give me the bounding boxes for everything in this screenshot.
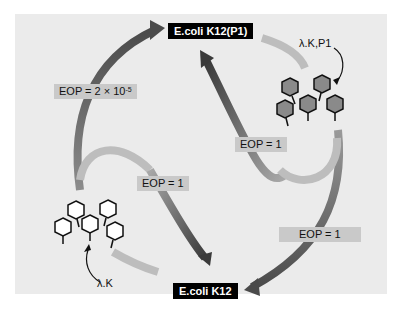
arrowhead-right-outer [244, 278, 260, 296]
eop-exponent: -5 [125, 86, 131, 93]
host-label-ecoli-k12: E.coli K12 [173, 283, 238, 299]
phage-group-filled [277, 75, 343, 126]
loop-right-light [280, 138, 337, 180]
phage-group-empty [55, 200, 123, 248]
arrowhead-left-outer [150, 20, 165, 40]
diagram-arrows [0, 0, 414, 320]
eop-label-center-right: EOP = 1 [235, 137, 287, 152]
phage-label-bottom-left: λ.K [97, 277, 113, 289]
arrow-center-up [207, 62, 285, 178]
eop-label-right-outer: EOP = 1 [279, 227, 361, 242]
phage-label-top-right: λ.K,P1 [299, 37, 331, 49]
eop-text: EOP = 2 × 10 [59, 85, 125, 97]
arc-bottom-left-light [113, 252, 158, 272]
host-label-ecoli-k12-p1: E.coli K12(P1) [168, 23, 253, 39]
eop-label-left-outer: EOP = 2 × 10-5 [54, 84, 137, 99]
eop-label-center-left: EOP = 1 [137, 176, 189, 191]
arrow-right-outer [252, 130, 339, 287]
pointer-arrow-top-right [334, 48, 343, 80]
